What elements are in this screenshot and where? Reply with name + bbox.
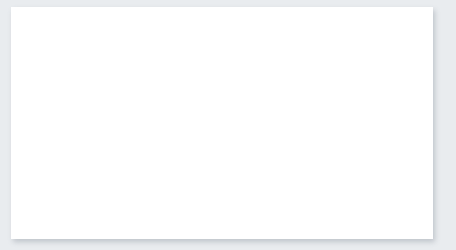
chart-container: Earnings per Share (1996 = 1.0) 0.01.02.…	[0, 0, 456, 250]
figure-card	[11, 7, 433, 239]
